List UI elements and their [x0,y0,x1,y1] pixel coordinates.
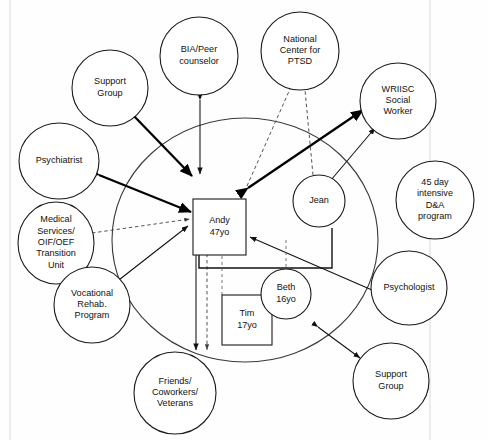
connection-andy-psychiatrist [99,175,191,212]
connection-jean-wriisc-sw [331,128,375,180]
connection-andy-voc-rehab [115,226,188,283]
connection-andy-wriisc-sw [248,110,363,188]
connection-andy-support-group-top [133,115,192,176]
label-support-group-bot: SupportGroup [375,370,407,391]
connection-andy-ptsd-center [247,89,290,186]
label-psychologist: Psychologist [383,282,435,292]
label-psychiatrist: Psychiatrist [36,155,83,165]
label-bia-peer: BIA/Peercounselor [179,45,218,66]
connection-boundary-support-group-bottom [318,327,360,358]
label-jean: Jean [309,195,329,205]
ecomap-diagram: SupportGroupBIA/PeercounselorNationalCen… [0,0,487,440]
connection-andy-medical-services [92,219,190,233]
label-support-group-top: SupportGroup [94,77,126,98]
label-wriisc-sw: WRIISCSocialWorker [382,84,415,117]
